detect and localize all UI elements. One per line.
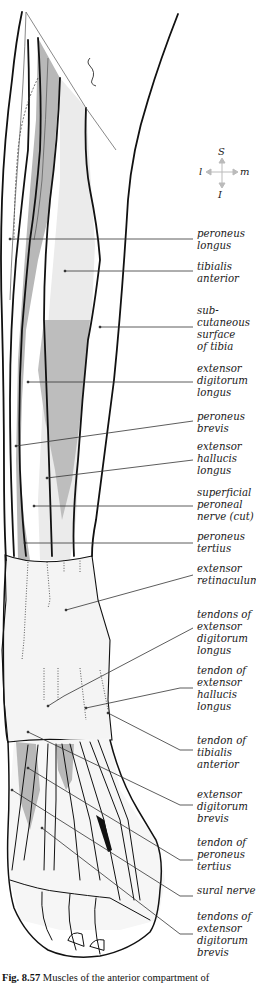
label-tibialis-anterior: tibialis anterior xyxy=(197,261,239,285)
label-peroneus-tertius: peroneus tertius xyxy=(197,531,245,555)
label-extensor-retinaculum: extensor retinaculum xyxy=(197,563,256,587)
label-subcutaneous-surface-of-tibia: sub- cutaneous surface of tibia xyxy=(197,305,250,353)
caption-text: Muscles of the anterior compartment of xyxy=(43,972,210,983)
orientation-compass xyxy=(206,158,238,188)
label-tendons-of-extensor-digitorum-brevis: tendons of extensor digitorum brevis xyxy=(197,911,251,959)
label-extensor-digitorum-brevis: extensor digitorum brevis xyxy=(197,789,248,825)
compass-lateral: l xyxy=(199,166,202,177)
toe-nail-1 xyxy=(68,933,84,946)
label-peroneus-longus: peroneus longus xyxy=(197,228,245,252)
label-tendon-of-peroneus-tertius: tendon of peroneus tertius xyxy=(197,837,246,873)
figure-caption: Fig. 8.57 Muscles of the anterior compar… xyxy=(2,972,209,983)
label-sural-nerve: sural nerve xyxy=(197,885,255,897)
label-tendons-of-extensor-digitorum-longus: tendons of extensor digitorum longus xyxy=(197,609,251,657)
caption-number: Fig. 8.57 xyxy=(2,972,40,983)
label-tendon-of-tibialis-anterior: tendon of tibialis anterior xyxy=(197,735,246,771)
label-extensor-digitorum-longus: extensor digitorum longus xyxy=(197,363,248,399)
medial-leg-outline xyxy=(92,14,178,556)
compass-medial: m xyxy=(240,166,249,177)
thin-line-1 xyxy=(10,12,26,300)
compass-inferior: I xyxy=(218,189,222,200)
patella-hook xyxy=(88,58,96,86)
compass-superior: S xyxy=(218,146,225,157)
extensor-retinaculum-band xyxy=(2,555,112,742)
label-peroneus-brevis: peroneus brevis xyxy=(197,411,245,435)
label-tendon-of-extensor-hallucis-longus: tendon of extensor hallucis longus xyxy=(197,665,246,713)
label-extensor-hallucis-longus: extensor hallucis longus xyxy=(197,441,242,477)
label-superficial-peroneal-nerve: superficial peroneal nerve (cut) xyxy=(197,487,254,523)
